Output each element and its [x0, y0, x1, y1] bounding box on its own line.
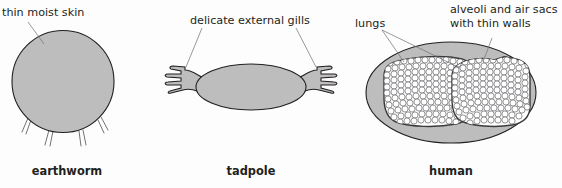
caption-earthworm: earthworm: [32, 164, 102, 178]
panel-earthworm: thin moist skin earthworm: [2, 6, 114, 178]
label-alveoli-line-1: alveoli and air sacs: [450, 3, 558, 16]
figure-canvas: thin moist skin earthworm delicate exter…: [0, 0, 562, 188]
label-alveoli-line-2: with thin walls: [450, 17, 531, 30]
label-lungs: lungs: [355, 17, 385, 30]
alveoli-cluster-right: [452, 57, 531, 126]
respiratory-surfaces-figure: thin moist skin earthworm delicate exter…: [0, 0, 562, 188]
panel-human: lungs alveoli and air sacs with thin wal…: [355, 3, 558, 178]
tadpole-leader-line-left: [186, 28, 202, 67]
label-delicate-external-gills: delicate external gills: [190, 14, 310, 27]
panel-tadpole: delicate external gills tadpole: [165, 14, 337, 178]
caption-human: human: [429, 164, 473, 178]
tadpole-leader-line-right: [296, 28, 316, 67]
caption-tadpole: tadpole: [227, 164, 276, 178]
earthworm-cross-section: [12, 31, 114, 133]
label-thin-moist-skin: thin moist skin: [2, 6, 84, 19]
tadpole-body: [196, 64, 306, 110]
alveoli-rows-right: [452, 57, 531, 126]
